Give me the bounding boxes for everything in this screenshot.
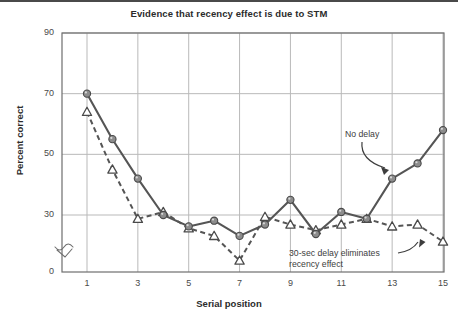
annotation-delay-line2: recency effect <box>289 259 343 270</box>
chart-figure: Evidence that recency effect is due to S… <box>0 0 458 321</box>
annotation-delay-line1: 30-sec delay eliminates <box>289 248 380 259</box>
series-30sec-delay <box>82 107 447 264</box>
annotation-no-delay: No delay <box>345 129 379 140</box>
axis-break-icon <box>55 244 73 257</box>
plot-area <box>0 0 458 321</box>
annotation-leaders <box>362 142 426 253</box>
